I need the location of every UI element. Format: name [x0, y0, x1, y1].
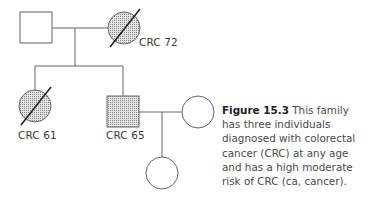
individual-ii2-male-affected: [107, 96, 139, 127]
individual-iii1-female: [146, 157, 178, 189]
label-ii1: CRC 61: [18, 129, 57, 141]
label-ii2: CRC 65: [106, 129, 145, 141]
figure-label: Figure 15.3: [222, 104, 289, 116]
label-i2: CRC 72: [139, 36, 178, 48]
individual-i1-male: [20, 12, 52, 43]
figure-caption: Figure 15.3 This family has three indivi…: [222, 103, 369, 188]
figure-caption-text: This family has three individuals diagno…: [222, 104, 355, 187]
individual-ii3-female: [182, 96, 214, 128]
